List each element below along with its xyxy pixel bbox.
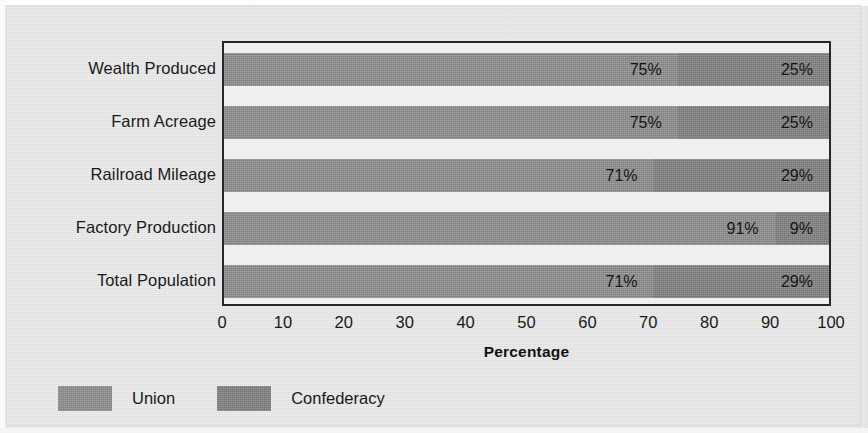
bar-row: 75% 25%: [224, 106, 829, 139]
category-axis-labels: Wealth Produced Farm Acreage Railroad Mi…: [20, 41, 216, 306]
bar-segment-confederacy: 29%: [654, 159, 829, 192]
bar-value-label: 9%: [790, 221, 829, 237]
x-axis-tick-labels: 0 10 20 30 40 50 60 70 80 90 100: [222, 313, 831, 337]
bar-row: 75% 25%: [224, 53, 829, 86]
bar-segment-confederacy: 25%: [678, 106, 829, 139]
x-tick-label: 50: [517, 313, 535, 332]
plot-inner: 75% 25% 75% 25% 71% 29%: [224, 43, 829, 304]
stacked-bar-chart: Wealth Produced Farm Acreage Railroad Mi…: [0, 0, 868, 433]
x-tick-label: 40: [456, 313, 474, 332]
bar-value-label: 25%: [781, 115, 829, 131]
legend-swatch-confederacy-icon: [217, 386, 271, 411]
bar-value-label: 91%: [727, 221, 775, 237]
x-tick-label: 90: [761, 313, 779, 332]
bar-segment-confederacy: 29%: [654, 265, 829, 298]
bar-segment-union: 71%: [224, 265, 654, 298]
bar-segment-confederacy: 25%: [678, 53, 829, 86]
x-tick-label: 70: [639, 313, 657, 332]
bar-value-label: 29%: [781, 274, 829, 290]
x-tick-label: 30: [396, 313, 414, 332]
category-label-total-population: Total Population: [20, 270, 216, 289]
legend-label-union: Union: [132, 389, 175, 408]
category-label-farm-acreage: Farm Acreage: [20, 111, 216, 130]
bar-segment-union: 91%: [224, 212, 775, 245]
x-axis-title: Percentage: [222, 343, 831, 361]
bar-value-label: 71%: [606, 274, 654, 290]
bar-row: 71% 29%: [224, 159, 829, 192]
legend-item-union[interactable]: Union: [58, 386, 175, 411]
bar-row: 91% 9%: [224, 212, 829, 245]
bar-segment-union: 75%: [224, 53, 678, 86]
bar-value-label: 29%: [781, 168, 829, 184]
bar-row: 71% 29%: [224, 265, 829, 298]
category-label-factory-production: Factory Production: [20, 217, 216, 236]
x-tick-label: 10: [274, 313, 292, 332]
x-tick-label: 60: [578, 313, 596, 332]
x-tick-label: 20: [335, 313, 353, 332]
bar-value-label: 25%: [781, 62, 829, 78]
bar-value-label: 75%: [630, 115, 678, 131]
x-tick-label: 80: [700, 313, 718, 332]
bar-value-label: 71%: [606, 168, 654, 184]
legend-item-confederacy[interactable]: Confederacy: [217, 386, 385, 411]
category-label-wealth-produced: Wealth Produced: [20, 58, 216, 77]
bar-segment-confederacy: 9%: [775, 212, 829, 245]
legend-label-confederacy: Confederacy: [291, 389, 385, 408]
legend-swatch-union-icon: [58, 386, 112, 411]
bar-value-label: 75%: [630, 62, 678, 78]
bar-segment-union: 75%: [224, 106, 678, 139]
category-label-railroad-mileage: Railroad Mileage: [20, 164, 216, 183]
bar-segment-union: 71%: [224, 159, 654, 192]
plot-area: 75% 25% 75% 25% 71% 29%: [222, 41, 831, 306]
x-tick-label: 100: [817, 313, 845, 332]
x-tick-label: 0: [217, 313, 226, 332]
chart-legend: Union Confederacy: [58, 383, 427, 413]
